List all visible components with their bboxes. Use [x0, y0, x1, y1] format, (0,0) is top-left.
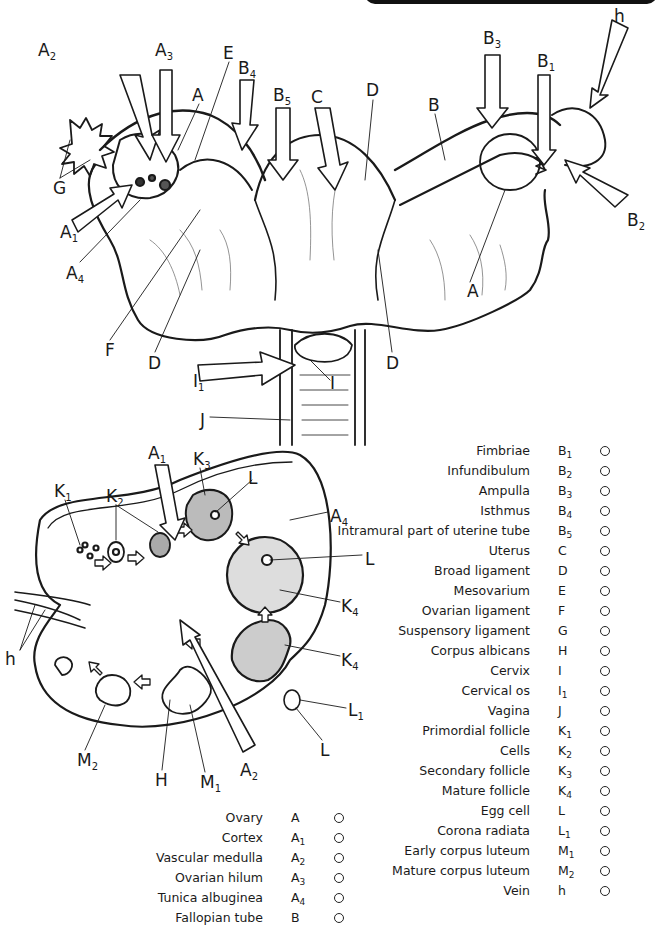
legend-code-subscript: 3	[567, 490, 573, 500]
label-subscript: 1	[549, 62, 555, 73]
label-letter: B	[483, 28, 495, 48]
checkbox-circle-icon[interactable]	[600, 726, 610, 736]
checkbox-circle-icon[interactable]	[600, 566, 610, 576]
legend-row: VaginaJ	[0, 700, 657, 721]
label-subscript: 3	[167, 51, 173, 62]
label-letter: A	[192, 85, 204, 105]
label-letter: A	[66, 263, 78, 283]
legend-row: AmpullaB3	[0, 480, 657, 501]
checkbox-circle-icon[interactable]	[600, 666, 610, 676]
legend-code: J	[558, 700, 562, 721]
legend-row: CervixI	[0, 660, 657, 681]
legend-code-letter: B	[558, 463, 567, 478]
label-letter: D	[148, 353, 161, 373]
legend-row: UterusC	[0, 540, 657, 561]
diagram-label-h_top: h	[614, 8, 625, 25]
checkbox-circle-icon[interactable]	[600, 546, 610, 556]
legend-code-letter: L	[558, 823, 565, 838]
legend-code: I	[558, 660, 562, 681]
label-letter: B	[273, 85, 285, 105]
legend-term: Mature corpus luteum	[392, 860, 530, 881]
diagram-label-j: J	[200, 412, 205, 429]
legend-code-subscript: 2	[566, 750, 572, 760]
checkbox-circle-icon[interactable]	[600, 786, 610, 796]
diagram-label-c: C	[311, 89, 323, 106]
label-letter: A	[38, 40, 50, 60]
checkbox-circle-icon[interactable]	[600, 746, 610, 756]
legend-term: Primordial follicle	[422, 720, 530, 741]
legend-code-subscript: 3	[566, 770, 572, 780]
legend-code-letter: h	[558, 883, 566, 898]
legend-row: Mature follicleK4	[0, 780, 657, 801]
diagram-label-d_right: D	[386, 355, 399, 372]
diagram-label-b_right: B	[428, 97, 440, 114]
legend-term: Infundibulum	[447, 460, 530, 481]
checkbox-circle-icon[interactable]	[600, 526, 610, 536]
checkbox-circle-icon[interactable]	[600, 606, 610, 616]
legend-code-letter: K	[558, 723, 566, 738]
checkbox-circle-icon[interactable]	[600, 586, 610, 596]
checkbox-circle-icon[interactable]	[600, 446, 610, 456]
legend-code: C	[558, 540, 567, 561]
legend-code-letter: G	[558, 623, 568, 638]
legend-code-letter: F	[558, 603, 565, 618]
label-letter: C	[311, 87, 323, 107]
legend-term: Uterus	[489, 540, 530, 561]
legend-code: L	[558, 800, 565, 821]
label-subscript: 4	[250, 69, 256, 80]
legend-code-subscript: 2	[569, 870, 575, 880]
legend-code-subscript: 1	[566, 730, 572, 740]
diagram-label-i1: I1	[193, 373, 204, 393]
legend-term: Broad ligament	[434, 560, 530, 581]
checkbox-circle-icon[interactable]	[600, 826, 610, 836]
label-letter: J	[200, 410, 205, 430]
legend-term: Cervix	[490, 660, 530, 681]
legend-row: Mature corpus luteumM2	[0, 860, 657, 881]
legend-term: Intramural part of uterine tube	[338, 520, 530, 541]
checkbox-circle-icon[interactable]	[600, 886, 610, 896]
diagram-label-a4: A4	[66, 265, 84, 285]
label-letter: h	[614, 6, 625, 26]
checkbox-circle-icon[interactable]	[600, 646, 610, 656]
legend-code-letter: K	[558, 743, 566, 758]
legend-code-letter: E	[558, 583, 566, 598]
legend-code: D	[558, 560, 568, 581]
checkbox-circle-icon[interactable]	[600, 806, 610, 816]
label-letter: B	[428, 95, 440, 115]
legend-code: B	[291, 907, 300, 928]
uterus-diagram	[60, 20, 628, 445]
legend-term: Fimbriae	[476, 440, 530, 461]
diagram-label-g: G	[53, 180, 66, 197]
legend-row: Secondary follicleK3	[0, 760, 657, 781]
legend-term: Fallopian tube	[175, 907, 263, 928]
checkbox-circle-icon[interactable]	[600, 866, 610, 876]
checkbox-circle-icon[interactable]	[600, 706, 610, 716]
label-letter: D	[386, 353, 399, 373]
checkbox-circle-icon[interactable]	[600, 626, 610, 636]
legend-row: Veinh	[0, 880, 657, 901]
legend-row: Corona radiataL1	[0, 820, 657, 841]
checkbox-circle-icon[interactable]	[334, 913, 344, 923]
legend-code: F	[558, 600, 565, 621]
diagram-label-b2: B2	[627, 212, 645, 232]
checkbox-circle-icon[interactable]	[600, 846, 610, 856]
legend-row: Cervical osI1	[0, 680, 657, 701]
legend-code-letter: I	[558, 663, 562, 678]
legend-row: InfundibulumB2	[0, 460, 657, 481]
checkbox-circle-icon[interactable]	[600, 686, 610, 696]
diagram-label-f: F	[105, 342, 115, 359]
legend-row: Early corpus luteumM1	[0, 840, 657, 861]
label-subscript: 5	[285, 96, 291, 107]
checkbox-circle-icon[interactable]	[600, 506, 610, 516]
label-letter: A	[467, 281, 479, 301]
checkbox-circle-icon[interactable]	[600, 466, 610, 476]
legend-code-letter: J	[558, 703, 562, 718]
legend-term: Cells	[500, 740, 530, 761]
checkbox-circle-icon[interactable]	[600, 766, 610, 776]
legend-row: Suspensory ligamentG	[0, 620, 657, 641]
legend-code-letter: M	[558, 863, 569, 878]
legend-code-letter: M	[558, 843, 569, 858]
legend-row: Egg cellL	[0, 800, 657, 821]
checkbox-circle-icon[interactable]	[600, 486, 610, 496]
legend-code-letter: K	[558, 763, 566, 778]
